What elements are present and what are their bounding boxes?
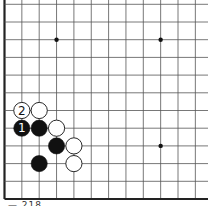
white-stone-icon bbox=[66, 156, 82, 172]
black-stone[interactable] bbox=[31, 120, 47, 136]
stones-layer[interactable]: 21 bbox=[14, 102, 82, 171]
black-stone-icon bbox=[48, 138, 64, 154]
white-stone[interactable] bbox=[66, 138, 82, 154]
black-stone-1[interactable]: 1 bbox=[14, 120, 30, 136]
black-stone[interactable] bbox=[31, 156, 47, 172]
black-stone[interactable] bbox=[48, 138, 64, 154]
white-stone-icon bbox=[31, 102, 47, 118]
star-point-icon bbox=[158, 38, 162, 42]
star-point-icon bbox=[54, 38, 58, 42]
black-stone-icon bbox=[31, 120, 47, 136]
move-number: 2 bbox=[18, 104, 26, 118]
black-stone-icon bbox=[31, 156, 47, 172]
diagram-caption: — 218 bbox=[8, 201, 42, 206]
white-stone-icon bbox=[48, 120, 64, 136]
go-board[interactable]: 21 bbox=[0, 0, 208, 206]
white-stone-icon bbox=[66, 138, 82, 154]
white-stone[interactable] bbox=[48, 120, 64, 136]
star-point-icon bbox=[158, 144, 162, 148]
move-number: 1 bbox=[18, 121, 26, 135]
white-stone[interactable] bbox=[66, 156, 82, 172]
white-stone-2[interactable]: 2 bbox=[14, 102, 30, 118]
white-stone[interactable] bbox=[31, 102, 47, 118]
